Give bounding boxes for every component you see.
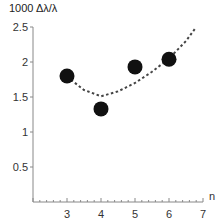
x-axis-title: n bbox=[209, 190, 215, 202]
y-tick-label: 2.5 bbox=[13, 21, 28, 33]
scatter-chart: 0.511.522.534567n bbox=[0, 0, 223, 223]
x-tick-label: 3 bbox=[64, 208, 70, 220]
x-tick-label: 7 bbox=[200, 208, 206, 220]
x-tick-label: 6 bbox=[166, 208, 172, 220]
y-tick-label: 1 bbox=[22, 126, 28, 138]
data-point bbox=[162, 52, 177, 67]
y-tick-label: 0.5 bbox=[13, 161, 28, 173]
y-tick-label: 1.5 bbox=[13, 91, 28, 103]
data-point bbox=[128, 59, 143, 74]
x-tick-label: 5 bbox=[132, 208, 138, 220]
data-point bbox=[60, 69, 75, 84]
y-tick-label: 2 bbox=[22, 56, 28, 68]
x-tick-label: 4 bbox=[98, 208, 104, 220]
data-point bbox=[94, 101, 109, 116]
